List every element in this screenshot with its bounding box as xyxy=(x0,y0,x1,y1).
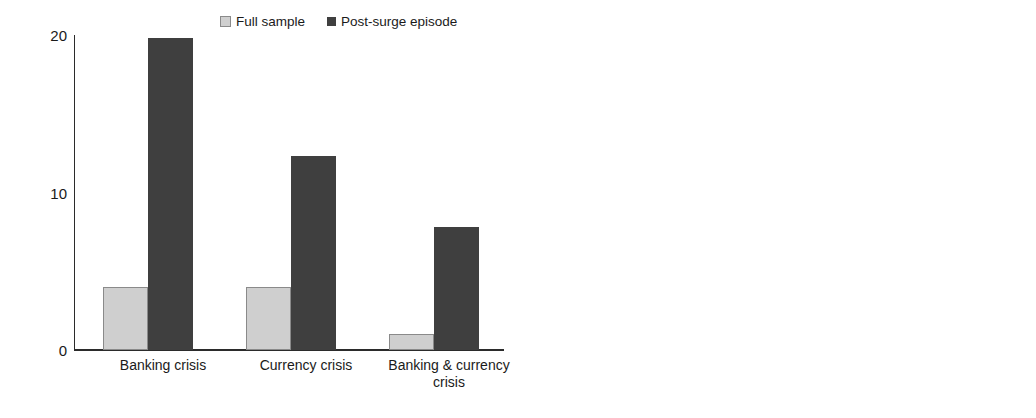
panel-left: Full sample Post-surge episode 20 10 0 xyxy=(0,0,518,418)
y-tick-label: 20 xyxy=(50,27,67,44)
x-tick-label: Currency crisis xyxy=(231,357,381,374)
y-tick-label: 10 xyxy=(50,184,67,201)
x-tick-label: Banking crisis xyxy=(88,357,238,374)
figure-two-panel-bar-charts: Full sample Post-surge episode 20 10 0 xyxy=(0,0,1036,418)
x-tick-label: Banking & currency crisis xyxy=(374,357,524,391)
legend-item-label: Post-surge episode xyxy=(341,14,457,29)
bar-group xyxy=(389,35,508,350)
bar-group xyxy=(103,35,222,350)
legend-left: Full sample Post-surge episode xyxy=(220,14,457,29)
bar-post-surge xyxy=(148,38,193,350)
y-tick-label: 0 xyxy=(59,342,67,359)
bar-full-sample xyxy=(103,287,148,350)
bar-post-surge xyxy=(434,227,479,350)
bar-full-sample xyxy=(246,287,291,350)
legend-swatch-icon xyxy=(220,16,231,27)
legend-item: Post-surge episode xyxy=(327,14,457,29)
bar-group xyxy=(246,35,365,350)
legend-item-label: Full sample xyxy=(236,14,305,29)
legend-swatch-icon xyxy=(327,17,336,26)
panel-right: Post-surge episode banking crisis Post-s… xyxy=(518,0,1036,418)
bar-post-surge xyxy=(291,156,336,350)
legend-item: Full sample xyxy=(220,14,305,29)
bars-left xyxy=(74,35,504,350)
bar-full-sample xyxy=(389,334,434,350)
plot-area-left: 20 10 0 Ba xyxy=(74,35,504,350)
